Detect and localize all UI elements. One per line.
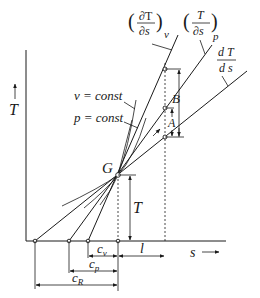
paren-left: ( (128, 10, 135, 33)
dimension-t: T (118, 175, 143, 240)
s-axis-label-group: s (190, 245, 219, 260)
label-p-num: T (197, 8, 205, 22)
label-tangent-d: d T d s (217, 45, 236, 86)
isochore-label: v = const (74, 88, 123, 103)
dimension-cp: cp (69, 241, 117, 273)
leader-p (200, 40, 205, 54)
label-cr: cR (72, 270, 84, 287)
label-tangent-p: ( T ∂s ) p (183, 8, 219, 54)
label-v-num: ∂T (139, 9, 153, 23)
process-direction-icon (153, 129, 160, 136)
dimension-l: l (119, 241, 164, 256)
t-axis-label-group: T (9, 84, 19, 118)
label-cp: cp (89, 256, 100, 273)
label-d-den: d s (219, 61, 233, 75)
label-tangent-v: ( ∂T ∂s ) v (128, 9, 172, 50)
label-l: l (140, 241, 144, 256)
isochore-leader (124, 102, 135, 109)
label-t-dim: T (133, 199, 143, 216)
axes (26, 50, 226, 241)
s-axis-label: s (190, 245, 196, 260)
label-g: G (102, 160, 113, 176)
ts-diagram: T s v = const p = const ( ∂T ∂s ) v ( (0, 0, 260, 298)
label-p-sub: p (212, 30, 219, 42)
leader-v (152, 44, 172, 50)
leader-d (222, 76, 228, 86)
label-p-den: ∂s (193, 24, 204, 38)
isobar-label: p = const (73, 110, 124, 125)
t-axis-label: T (9, 101, 19, 118)
paren-left: ( (183, 10, 190, 33)
label-v-sub: v (164, 28, 169, 40)
label-b: B (172, 91, 180, 106)
paren-right: ) (156, 10, 163, 33)
label-d-num: d T (218, 45, 235, 59)
label-a: A (167, 116, 176, 130)
label-cv: cv (97, 241, 107, 258)
label-v-den: ∂s (139, 24, 150, 38)
